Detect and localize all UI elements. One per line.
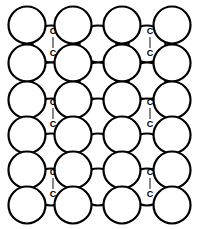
bond-right-1-atom-bottom: C: [147, 48, 154, 58]
sphere-r2-c2: [104, 82, 141, 119]
figure-canvas: CCCCCCCCCCCC: [0, 0, 206, 229]
sphere-lattice-diagram: CCCCCCCCCCCC: [0, 0, 206, 229]
bond-left-3-atom-bottom: C: [50, 189, 57, 199]
sphere-r3-c3: [154, 117, 191, 154]
sphere-r5-c0: [9, 187, 46, 224]
sphere-r5-c3: [154, 187, 191, 224]
sphere-r0-c1: [55, 7, 92, 44]
sphere-r1-c3: [154, 45, 191, 82]
sphere-r2-c1: [55, 82, 92, 119]
sphere-r0-c3: [154, 7, 191, 44]
sphere-r3-c0: [9, 117, 46, 154]
sphere-r4-c2: [104, 152, 141, 189]
sphere-r4-c1: [55, 152, 92, 189]
sphere-r4-c3: [154, 152, 191, 189]
bond-right-3-atom-top: C: [147, 167, 154, 177]
bond-right-1-atom-top: C: [147, 26, 154, 36]
sphere-r5-c1: [55, 187, 92, 224]
sphere-r3-c2: [104, 117, 141, 154]
sphere-r1-c1: [55, 45, 92, 82]
sphere-r2-c3: [154, 82, 191, 119]
sphere-r0-c2: [104, 7, 141, 44]
bond-left-3-atom-top: C: [50, 167, 57, 177]
sphere-r3-c1: [55, 117, 92, 154]
sphere-r2-c0: [9, 82, 46, 119]
bond-left-2-atom-top: C: [50, 97, 57, 107]
bond-left-2-atom-bottom: C: [50, 119, 57, 129]
sphere-r1-c2: [104, 45, 141, 82]
bond-right-2-atom-top: C: [147, 97, 154, 107]
sphere-r0-c0: [9, 7, 46, 44]
bond-right-3-atom-bottom: C: [147, 189, 154, 199]
sphere-r5-c2: [104, 187, 141, 224]
bond-left-1-atom-top: C: [50, 26, 57, 36]
sphere-r4-c0: [9, 152, 46, 189]
bond-left-1-atom-bottom: C: [50, 48, 57, 58]
sphere-r1-c0: [9, 45, 46, 82]
bond-right-2-atom-bottom: C: [147, 119, 154, 129]
